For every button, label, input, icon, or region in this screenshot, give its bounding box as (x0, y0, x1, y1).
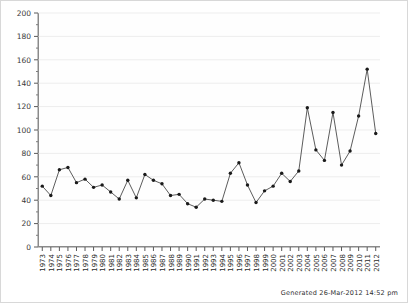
data-point (357, 114, 360, 117)
y-tick-label: 180 (17, 32, 32, 41)
data-point (271, 184, 274, 187)
data-point (75, 181, 78, 184)
x-tick-label: 2001 (279, 254, 287, 272)
y-axis: 020406080100120140160180200 (17, 9, 38, 252)
data-point (194, 206, 197, 209)
x-tick-label: 1982 (116, 254, 124, 272)
x-tick-label: 2004 (304, 253, 312, 271)
data-point (169, 194, 172, 197)
gridlines (38, 13, 380, 224)
x-tick-label: 2000 (270, 254, 278, 272)
data-point (297, 169, 300, 172)
x-tick-label: 1981 (108, 254, 116, 272)
data-point (348, 149, 351, 152)
y-tick-label: 60 (21, 173, 31, 182)
x-tick-label: 1974 (48, 253, 56, 271)
x-tick-label: 1993 (210, 254, 218, 272)
x-tick-label: 1995 (227, 254, 235, 272)
data-point (314, 148, 317, 151)
x-tick-label: 2006 (321, 253, 329, 271)
data-point (100, 183, 103, 186)
data-point (126, 179, 129, 182)
data-point (152, 179, 155, 182)
x-tick-label: 1999 (262, 254, 270, 272)
data-point (365, 67, 368, 70)
data-point (220, 200, 223, 203)
x-tick-label: 2011 (364, 254, 372, 272)
x-tick-label: 1975 (56, 254, 64, 272)
data-point (280, 172, 283, 175)
y-tick-label: 0 (26, 243, 31, 252)
x-tick-label: 1998 (253, 254, 261, 272)
y-tick-label: 140 (17, 79, 32, 88)
x-tick-label: 2003 (296, 254, 304, 272)
x-tick-label: 1973 (39, 254, 47, 272)
y-tick-label: 100 (17, 126, 32, 135)
x-tick-label: 1990 (185, 254, 193, 272)
data-point (41, 184, 44, 187)
x-tick-label: 1994 (219, 253, 227, 271)
x-tick-label: 2002 (287, 254, 295, 272)
data-point (340, 163, 343, 166)
x-tick-label: 1983 (125, 254, 133, 272)
data-series (41, 67, 378, 208)
x-tick-label: 1991 (193, 254, 201, 272)
x-tick-label: 1997 (244, 254, 252, 272)
y-tick-label: 40 (21, 196, 31, 205)
y-tick-label: 120 (17, 102, 32, 111)
data-point (289, 180, 292, 183)
x-tick-label: 1988 (168, 254, 176, 272)
data-point (118, 197, 121, 200)
data-point (212, 199, 215, 202)
chart-canvas: 020406080100120140160180200 197319741975… (0, 0, 408, 303)
x-tick-label: 1977 (73, 254, 81, 272)
x-tick-label: 1980 (99, 254, 107, 272)
data-point (143, 173, 146, 176)
x-tick-label: 1984 (133, 253, 141, 271)
data-point (263, 189, 266, 192)
data-point (246, 183, 249, 186)
data-point (374, 132, 377, 135)
x-tick-label: 1989 (176, 254, 184, 272)
x-tick-label: 1987 (159, 254, 167, 272)
data-point (306, 106, 309, 109)
data-point (186, 202, 189, 205)
data-point (160, 182, 163, 185)
data-point (49, 194, 52, 197)
data-point (66, 166, 69, 169)
data-point (92, 186, 95, 189)
data-point (237, 161, 240, 164)
data-point (83, 177, 86, 180)
y-tick-label: 200 (17, 9, 32, 18)
data-point (135, 196, 138, 199)
x-tick-label: 1979 (91, 254, 99, 272)
data-point (177, 193, 180, 196)
y-tick-label: 160 (17, 56, 32, 65)
x-tick-label: 2010 (356, 254, 364, 272)
x-tick-label: 1976 (65, 253, 73, 271)
x-tick-label: 1978 (82, 254, 90, 272)
data-point (203, 197, 206, 200)
data-point (331, 111, 334, 114)
x-axis: 1973197419751976197719781979198019811982… (38, 247, 381, 272)
data-point (229, 172, 232, 175)
x-tick-label: 1996 (236, 253, 244, 271)
data-point (58, 168, 61, 171)
x-tick-label: 2005 (313, 254, 321, 272)
x-tick-label: 2007 (330, 254, 338, 272)
chart-container: 020406080100120140160180200 197319741975… (0, 0, 408, 303)
y-tick-label: 80 (21, 149, 31, 158)
x-tick-label: 2008 (339, 254, 347, 272)
x-tick-label: 2012 (373, 254, 381, 272)
y-tick-label: 20 (21, 219, 31, 228)
x-tick-label: 1985 (142, 254, 150, 272)
generated-timestamp: Generated 26-Mar-2012 14:52 pm (281, 289, 398, 297)
x-tick-label: 1986 (150, 253, 158, 271)
data-point (323, 159, 326, 162)
x-tick-label: 2009 (347, 254, 355, 272)
data-point (109, 190, 112, 193)
data-point (254, 201, 257, 204)
x-tick-label: 1992 (202, 254, 210, 272)
